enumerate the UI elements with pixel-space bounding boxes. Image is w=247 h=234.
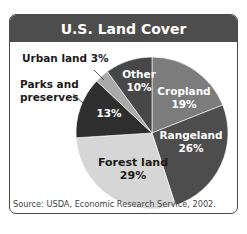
- label-parks-pct: 13%: [92, 107, 126, 119]
- label-cropland-name: Cropland: [154, 85, 214, 97]
- label-rangeland-name: Rangeland: [158, 129, 224, 141]
- label-forest-pct: 29%: [93, 170, 173, 182]
- label-parks-line1: Parks and: [20, 78, 79, 90]
- label-parks-line2: preserves: [20, 91, 79, 103]
- label-cropland-pct: 19%: [154, 98, 214, 110]
- source-note: Source: USDA, Economic Research Service,…: [13, 199, 216, 209]
- label-urban-land: Urban land 3%: [22, 52, 109, 64]
- label-other-name: Other: [118, 68, 160, 80]
- label-rangeland-pct: 26%: [158, 142, 224, 154]
- label-forest-name: Forest land: [93, 157, 173, 169]
